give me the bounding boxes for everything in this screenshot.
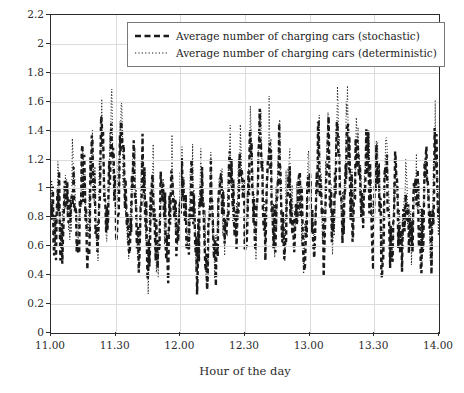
x-tick-label: 11.00 (20, 339, 80, 351)
y-tick-label: 1.6 (0, 96, 44, 106)
y-tick-label: 1.4 (0, 125, 44, 135)
x-tick-label: 12.30 (214, 339, 274, 351)
y-tick-label: 0 (0, 327, 44, 337)
y-tick-label: 1.8 (0, 67, 44, 77)
y-tick-label: 0.8 (0, 211, 44, 221)
y-tick-mark (46, 72, 50, 73)
legend-item-deterministic: Average number of charging cars (determi… (135, 44, 437, 61)
x-tick-label: 14.00 (408, 339, 464, 351)
x-tick-mark (115, 332, 116, 336)
gridline-vertical (116, 15, 117, 333)
legend-label-deterministic: Average number of charging cars (determi… (176, 47, 437, 59)
dotted-line-swatch-icon (135, 49, 169, 57)
y-tick-mark (46, 43, 50, 44)
y-tick-label: 2 (0, 38, 44, 48)
y-tick-mark (46, 14, 50, 15)
chart-legend: Average number of charging cars (stochas… (127, 22, 445, 67)
y-tick-mark (46, 187, 50, 188)
y-tick-label: 1 (0, 182, 44, 192)
y-tick-mark (46, 245, 50, 246)
y-tick-mark (46, 159, 50, 160)
dashed-line-swatch-icon (135, 32, 169, 40)
x-tick-label: 12.00 (149, 339, 209, 351)
y-tick-label: 0.6 (0, 240, 44, 250)
y-tick-label: 1.2 (0, 154, 44, 164)
x-tick-mark (373, 332, 374, 336)
x-tick-label: 13.00 (279, 339, 339, 351)
y-tick-mark (46, 274, 50, 275)
y-tick-mark (46, 303, 50, 304)
x-tick-mark (309, 332, 310, 336)
x-axis-title: Hour of the day (50, 364, 440, 378)
chart-container: 00.20.40.60.811.21.41.61.822.2 11.0011.3… (0, 0, 464, 393)
y-tick-mark (46, 101, 50, 102)
legend-item-stochastic: Average number of charging cars (stochas… (135, 27, 437, 44)
y-tick-mark (46, 216, 50, 217)
y-tick-label: 0.4 (0, 269, 44, 279)
x-tick-mark (179, 332, 180, 336)
x-tick-mark (244, 332, 245, 336)
x-tick-label: 11.30 (85, 339, 145, 351)
y-tick-mark (46, 130, 50, 131)
y-tick-label: 2.2 (0, 9, 44, 19)
x-tick-mark (50, 332, 51, 336)
legend-label-stochastic: Average number of charging cars (stochas… (176, 30, 420, 42)
x-tick-label: 13.30 (343, 339, 403, 351)
y-tick-label: 0.2 (0, 298, 44, 308)
x-tick-mark (438, 332, 439, 336)
